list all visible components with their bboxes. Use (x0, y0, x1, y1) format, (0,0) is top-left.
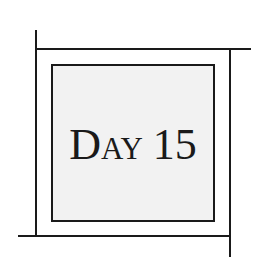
day-title-box: Day15 (51, 64, 215, 222)
day-title-number: 15 (153, 120, 197, 169)
day-title-word: Day (69, 120, 143, 169)
frame-line-right (229, 49, 231, 257)
day-title: Day15 (69, 123, 197, 167)
frame-line-bottom (18, 235, 230, 237)
frame-line-top (36, 48, 251, 50)
frame-line-left (35, 30, 37, 237)
